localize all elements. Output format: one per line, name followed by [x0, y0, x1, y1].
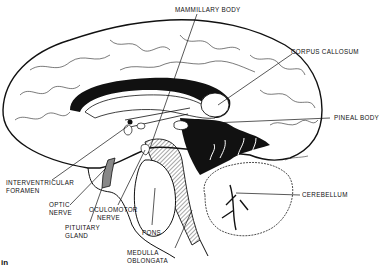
- label-cerebellum: CEREBELLUM: [302, 191, 348, 199]
- label-optic-nerve-1: OPTIC: [49, 201, 70, 209]
- label-pituitary-gland-2: GLAND: [65, 232, 88, 240]
- label-mammillary-body: MAMMILLARY BODY: [175, 6, 241, 14]
- label-corpus-callosum: CORPUS CALLOSUM: [291, 48, 359, 56]
- label-pituitary-gland-1: PITUITARY: [65, 224, 100, 232]
- label-interventricular-foramen-2: FORAMEN: [6, 187, 40, 195]
- pineal-shape: [174, 121, 188, 130]
- label-oculomotor-nerve-2: NERVE: [97, 214, 120, 222]
- label-interventricular-foramen-1: INTERVENTRICULAR: [6, 179, 74, 187]
- label-medulla-oblongata-2: OBLONGATA: [127, 257, 168, 265]
- label-oculomotor-nerve-1: OCULOMOTOR: [89, 206, 138, 214]
- label-medulla-oblongata-1: MEDULLA: [127, 249, 159, 257]
- label-pons: PONS: [142, 229, 161, 237]
- brain-illustration: [0, 0, 384, 268]
- cerebellum-shape: [204, 162, 293, 235]
- label-optic-nerve-2: NERVE: [49, 209, 72, 217]
- label-pineal-body: PINEAL BODY: [334, 114, 379, 122]
- brain-diagram: MAMMILLARY BODY CORPUS CALLOSUM PINEAL B…: [0, 0, 384, 268]
- caption-fragment: in: [1, 258, 8, 267]
